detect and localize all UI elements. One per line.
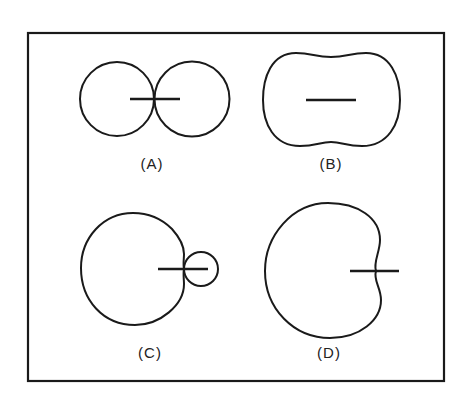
panel-c: (C) [81,213,218,361]
panel-label-b: (B) [320,155,343,172]
panel-a: (A) [80,62,230,172]
panel-label-d: (D) [317,344,341,361]
panel-label-c: (C) [138,344,162,361]
polar-patterns-figure: (A) (B) (C) (D) [0,0,470,400]
panel-label-a: (A) [141,155,164,172]
figure-frame [28,33,444,381]
panel-b: (B) [263,53,400,172]
panel-d: (D) [265,203,399,361]
